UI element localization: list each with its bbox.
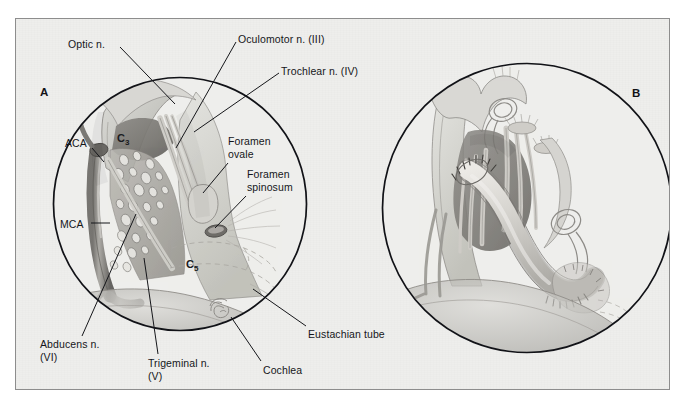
label-line: Optic n. (68, 38, 105, 50)
leader-eustachian-tube (253, 289, 306, 326)
illustration-artwork (0, 0, 683, 404)
label-line: Trochlear n. (IV) (281, 65, 358, 77)
subscript: 3 (125, 138, 129, 147)
label-line: (V) (148, 370, 162, 382)
label-line: Abducens n. (40, 338, 99, 350)
label-mca-artery: MCA (60, 218, 84, 231)
label-foramen-spinosum: Foramenspinosum (247, 168, 293, 193)
label-line: Foramen (247, 168, 290, 180)
label-abducens-nerve: Abducens n.(VI) (40, 338, 99, 363)
panel-letter-b: B (632, 87, 640, 99)
label-cochlea: Cochlea (263, 364, 302, 377)
label-line: Eustachian tube (308, 328, 385, 340)
label-line: ACA (65, 137, 87, 149)
label-aca-artery: ACA (65, 137, 87, 150)
subscript: 5 (194, 264, 198, 273)
label-foramen-ovale: Foramenovale (228, 135, 271, 160)
panel-letter-a: A (40, 86, 48, 98)
label-line: Foramen (228, 135, 271, 147)
panel-a-illustration (50, 74, 312, 342)
label-line: MCA (60, 218, 84, 230)
label-trochlear-nerve: Trochlear n. (IV) (281, 65, 358, 78)
label-line: Oculomotor n. (III) (238, 33, 325, 45)
label-line: (VI) (40, 351, 57, 363)
leader-cochlea (231, 317, 261, 361)
label-trigeminal-nerve: Trigeminal n.(V) (148, 357, 210, 382)
figure-root: Optic n.Oculomotor n. (III)Trochlear n. … (0, 0, 683, 404)
label-oculomotor-nerve: Oculomotor n. (III) (238, 33, 325, 46)
label-line: Trigeminal n. (148, 357, 210, 369)
label-line: ovale (228, 148, 254, 160)
label-line: spinosum (247, 181, 293, 193)
inner-label-c5-segment: C5 (186, 258, 198, 273)
label-eustachian-tube: Eustachian tube (308, 328, 385, 341)
panel-b-illustration (380, 60, 676, 356)
inner-label-c3-segment: C3 (117, 132, 129, 147)
label-line: Cochlea (263, 364, 302, 376)
label-optic-nerve: Optic n. (68, 38, 105, 51)
